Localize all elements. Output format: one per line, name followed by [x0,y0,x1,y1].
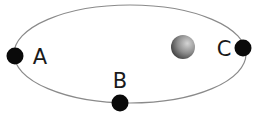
point-a: A [7,45,48,69]
point-b: B [112,69,129,112]
point-b-label: B [113,69,127,93]
orbit-ellipse [14,5,246,103]
point-a-dot [7,48,24,65]
point-a-label: A [33,45,48,69]
point-b-dot [112,95,129,112]
point-c-label: C [217,37,232,61]
central-body [171,35,195,59]
orbit-diagram: A B C [0,0,259,115]
point-c-dot [235,40,252,57]
